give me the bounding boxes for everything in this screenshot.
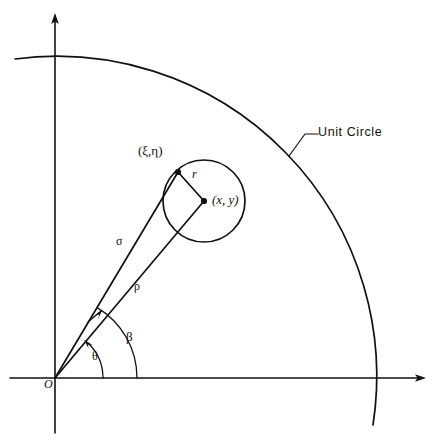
point-xi-eta-label: (ξ,η) (138, 144, 163, 157)
theta-label: θ (92, 350, 98, 362)
radius-r-label: r (192, 168, 197, 180)
rho-label: ρ (134, 280, 140, 292)
beta-label: β (126, 330, 133, 343)
diagram-svg (0, 0, 439, 440)
ray-sigma (55, 172, 178, 378)
ray-rho (55, 201, 204, 378)
point-xi-eta-dot (175, 169, 181, 175)
unit-circle-label: Unit Circle (318, 126, 382, 139)
point-xy-label: (x, y) (212, 193, 239, 206)
point-xy-dot (201, 198, 207, 204)
leader-unit-circle (289, 134, 318, 156)
figure-canvas: O (ξ,η) (x, y) r σ ρ θ β Unit Circle (0, 0, 439, 440)
origin-label: O (44, 378, 53, 390)
segment-radius-r (178, 172, 204, 201)
sigma-label: σ (116, 235, 122, 247)
